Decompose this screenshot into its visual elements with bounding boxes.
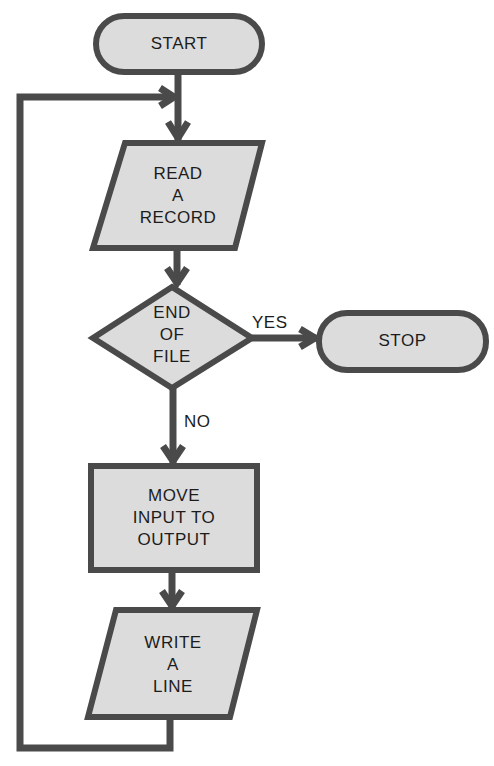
write-line-label: WRITE A LINE — [98, 632, 248, 698]
yes-label: YES — [252, 313, 288, 333]
read-record-label: READ A RECORD — [103, 163, 253, 229]
start-label: START — [96, 33, 262, 55]
no-label: NO — [184, 412, 211, 432]
end-of-file-label: END OF FILE — [112, 302, 232, 368]
stop-label: STOP — [319, 330, 486, 352]
move-input-label: MOVE INPUT TO OUTPUT — [91, 485, 257, 551]
